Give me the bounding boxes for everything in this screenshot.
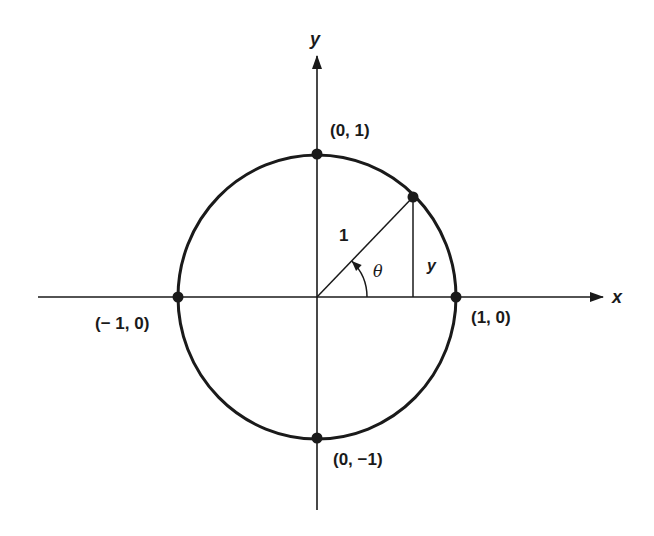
point-bottom-label: (0, −1) bbox=[333, 450, 383, 469]
point-on-circle bbox=[408, 192, 419, 203]
point-right bbox=[451, 292, 462, 303]
x-axis-label: x bbox=[611, 287, 623, 307]
point-top bbox=[312, 149, 323, 160]
point-left bbox=[173, 292, 184, 303]
point-left-label: (− 1, 0) bbox=[95, 314, 149, 333]
angle-arrow-icon bbox=[352, 261, 362, 271]
theta-label: θ bbox=[373, 262, 383, 281]
point-right-label: (1, 0) bbox=[471, 308, 511, 327]
point-bottom bbox=[312, 433, 323, 444]
unit-circle-diagram: x y 1 θ y (0, 1) (0, −1) (− 1, 0) (1, 0) bbox=[0, 0, 654, 536]
opposite-side-label: y bbox=[426, 257, 437, 274]
y-axis-label: y bbox=[309, 29, 321, 49]
point-top-label: (0, 1) bbox=[330, 121, 370, 140]
radius-label: 1 bbox=[339, 226, 348, 245]
